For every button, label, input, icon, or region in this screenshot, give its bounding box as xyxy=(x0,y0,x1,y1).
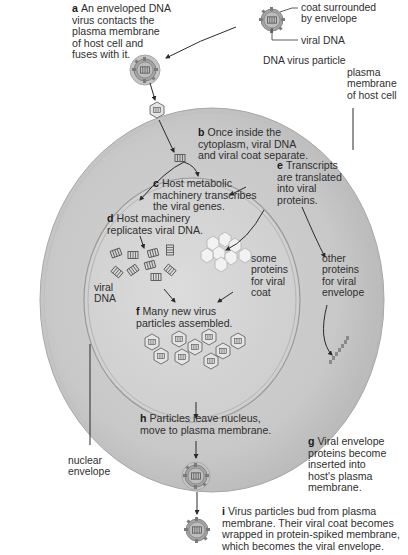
released-virus-icon xyxy=(184,517,210,543)
envelope-proteins-label: other proteins for viral envelope xyxy=(322,253,364,299)
step-b: bOnce inside the cytoplasm, viral DNA an… xyxy=(198,127,308,162)
legend-coat-label: coat surrounded by envelope xyxy=(301,2,376,25)
step-e: eTranscripts are translated into viral p… xyxy=(277,160,342,206)
viral-dna-label: viral DNA xyxy=(94,282,116,305)
step-g: gViral envelope proteins become inserted… xyxy=(308,436,386,494)
nuclear-envelope-label: nuclear envelope xyxy=(68,455,110,478)
coat-proteins-label: some proteins for viral coat xyxy=(251,253,288,299)
legend-caption: DNA virus particle xyxy=(263,55,346,66)
step-c: cHost metabolic machinery transcribes th… xyxy=(153,178,257,213)
plasma-membrane-label: plasma membrane of host cell xyxy=(347,67,397,101)
step-h: hParticles leave nucleus, move to plasma… xyxy=(140,413,271,436)
legend-dna-label: viral DNA xyxy=(301,35,345,46)
step-a: aAn enveloped DNA virus contacts the pla… xyxy=(72,3,171,61)
step-f: fMany new virus particles assembled. xyxy=(136,306,233,329)
virus-replication-diagram: coat surrounded by envelope viral DNA DN… xyxy=(0,0,408,555)
step-i: iVirus particles bud from plasma membran… xyxy=(222,506,400,552)
step-d: dHost machinery replicates viral DNA. xyxy=(107,213,203,236)
